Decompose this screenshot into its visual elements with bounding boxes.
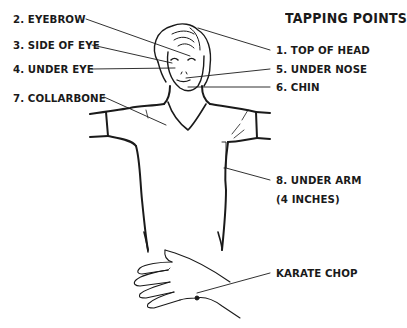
torso-drawing [90, 86, 270, 252]
label-chin: 6. CHIN [276, 81, 320, 94]
label-collarbone: 7. COLLARBONE [13, 92, 106, 105]
label-karate-chop: KARATE CHOP [276, 267, 358, 280]
hand-drawing [134, 250, 240, 318]
label-under-eye: 4. UNDER EYE [13, 63, 94, 76]
label-under-nose: 5. UNDER NOSE [276, 63, 367, 76]
karate-chop-point-icon [195, 296, 199, 300]
label-top-of-head: 1. TOP OF HEAD [276, 44, 370, 57]
diagram-title: TAPPING POINTS [285, 12, 407, 25]
label-side-of-eye: 3. SIDE OF EYE [13, 39, 100, 52]
head-drawing [154, 24, 210, 91]
label-under-arm: 8. UNDER ARM [276, 174, 361, 187]
label-eyebrow: 2. EYEBROW [13, 13, 86, 26]
label-under-arm-note: (4 INCHES) [276, 193, 340, 206]
